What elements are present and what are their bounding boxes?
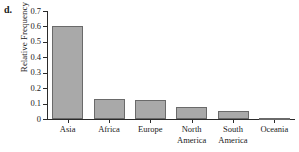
y-axis-tick-label: 0 (1, 115, 41, 124)
x-axis-tick-label: Asia (47, 124, 88, 135)
y-axis-tick-labels: 00.10.20.30.40.50.60.7 (0, 0, 41, 152)
x-axis-tick-label: Oceania (254, 124, 295, 135)
y-axis-tick-mark (43, 57, 47, 58)
y-axis-tick-mark (43, 42, 47, 43)
x-axis-tick-mark (274, 120, 275, 123)
y-axis-tick-mark (43, 88, 47, 89)
bar (135, 100, 166, 119)
x-axis-tick-label: Africa (88, 124, 129, 135)
y-axis-tick-label: 0.7 (1, 7, 41, 16)
y-axis-tick-mark (43, 11, 47, 12)
x-axis-tick-label: Europe (130, 124, 171, 135)
figure-panel: d. Relative Frequency 00.10.20.30.40.50.… (0, 0, 299, 152)
bar (94, 99, 125, 119)
y-axis-tick-label: 0.3 (1, 68, 41, 77)
bar (52, 26, 83, 119)
y-axis-tick-mark (43, 104, 47, 105)
y-axis-tick-label: 0.1 (1, 99, 41, 108)
y-axis-tick-label: 0.4 (1, 53, 41, 62)
y-axis-tick-mark (43, 73, 47, 74)
y-axis-tick-label: 0.6 (1, 22, 41, 31)
y-axis-tick-label: 0.5 (1, 37, 41, 46)
plot-area (47, 11, 295, 119)
bar (176, 107, 207, 119)
x-axis-line (47, 119, 295, 120)
bar (218, 111, 249, 119)
x-axis-tick-label: North America (171, 124, 212, 145)
y-axis-tick-mark (43, 26, 47, 27)
y-axis-tick-label: 0.2 (1, 84, 41, 93)
x-axis-tick-label: South America (212, 124, 253, 145)
x-axis-tick-mark (109, 120, 110, 123)
x-axis-tick-mark (150, 120, 151, 123)
x-axis-tick-mark (233, 120, 234, 123)
y-axis-tick-mark (43, 119, 47, 120)
x-axis-tick-mark (68, 120, 69, 123)
x-axis-tick-mark (192, 120, 193, 123)
